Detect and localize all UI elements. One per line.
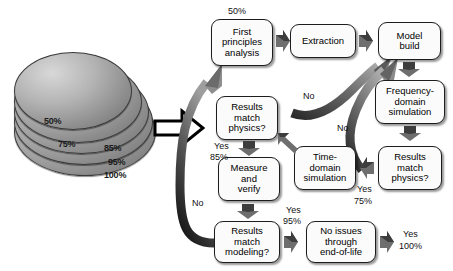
arrow-measure-verify-to-results-modeling	[236, 203, 260, 220]
label-percent-100: 100%	[399, 241, 422, 251]
box-label: Extraction	[302, 36, 344, 47]
box-label: Model build	[397, 31, 423, 52]
box-label: Results match physics?	[392, 152, 429, 184]
arrow-results-physics-to-measure-verify	[237, 140, 261, 157]
box-label: No issues through end-of-life	[320, 226, 362, 258]
label-percent-75: 75%	[354, 196, 372, 206]
arrow-results-physics-to-time-domain	[359, 156, 375, 180]
box-extraction[interactable]: Extraction	[290, 24, 356, 58]
box-label: Results match modeling?	[225, 226, 269, 258]
box-results-match-physics-right[interactable]: Results match physics?	[378, 146, 442, 190]
box-frequency-domain-simulation[interactable]: Frequency- domain simulation	[375, 80, 445, 124]
label-no-lower: No	[337, 123, 349, 133]
disc-label-50: 50%	[44, 116, 61, 126]
arrow-time-domain-to-results-physics-left	[276, 130, 300, 154]
entry-block-arrow	[153, 108, 205, 148]
box-label: Measure and verify	[231, 163, 268, 195]
arrow-frequency-domain-to-results-physics	[398, 125, 422, 142]
label-yes-85: Yes	[214, 141, 229, 151]
disc-50	[14, 52, 132, 130]
flowchart-figure: 50% 75% 85% 95% 100%	[0, 0, 453, 271]
disc-label-95: 95%	[108, 157, 125, 167]
box-time-domain-simulation[interactable]: Time- domain simulation	[294, 146, 356, 190]
box-first-principles-analysis[interactable]: First principles analysis	[211, 19, 273, 66]
label-percent-85: 85%	[210, 152, 228, 162]
label-percent-95: 95%	[283, 216, 301, 226]
label-start-percent: 50%	[228, 6, 246, 16]
label-yes-95: Yes	[286, 205, 301, 215]
label-yes-100: Yes	[403, 229, 418, 239]
label-no-upper: No	[303, 91, 315, 101]
box-label: Time- domain simulation	[304, 152, 347, 184]
arrow-extraction-to-model-build	[358, 29, 374, 53]
box-no-issues-end-of-life[interactable]: No issues through end-of-life	[306, 221, 376, 263]
box-measure-and-verify[interactable]: Measure and verify	[218, 157, 280, 201]
box-label: Frequency- domain simulation	[386, 86, 434, 118]
disc-label-85: 85%	[104, 143, 121, 153]
box-label: Results match physics?	[229, 102, 266, 134]
arrow-no-issues-to-final	[379, 230, 395, 254]
box-results-match-physics-left[interactable]: Results match physics?	[216, 96, 278, 140]
label-no-left: No	[192, 198, 204, 208]
box-results-match-modeling[interactable]: Results match modeling?	[214, 221, 280, 263]
arrow-results-modeling-to-no-issues	[283, 230, 299, 254]
box-label: First principles analysis	[222, 27, 262, 59]
arrow-first-principles-to-extraction	[275, 29, 291, 53]
disc-label-100: 100%	[104, 170, 126, 180]
label-yes-75: Yes	[357, 184, 372, 194]
box-model-build[interactable]: Model build	[378, 22, 441, 60]
disc-label-75: 75%	[58, 139, 75, 149]
arrow-model-build-to-frequency-domain	[397, 61, 421, 78]
